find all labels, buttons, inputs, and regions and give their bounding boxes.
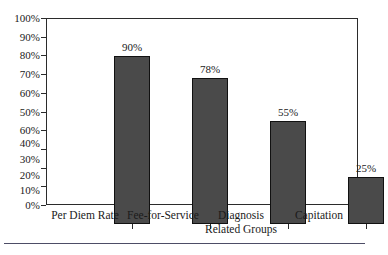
y-tick-label: 10% xyxy=(0,185,40,196)
x-category-label-line: Fee-for-Service xyxy=(127,209,199,221)
x-category-label: Per Diem Rate xyxy=(46,208,124,222)
x-axis: Per Diem RateFee-for-ServiceDiagnosisRel… xyxy=(46,208,358,248)
bar-value-label: 78% xyxy=(170,64,250,75)
y-axis: 100%90%80%70%60%50%60%40%30%20%10%0% xyxy=(0,18,40,205)
bar-value-label: 25% xyxy=(326,163,388,174)
y-tick-label: 20% xyxy=(0,169,40,180)
y-tick-mark xyxy=(41,186,46,187)
plot-area: 90%78%55%25% xyxy=(46,18,358,205)
x-category-label-line: Capitation xyxy=(295,209,343,221)
y-tick-mark xyxy=(41,168,46,169)
x-category-label-line: Per Diem Rate xyxy=(51,209,119,221)
bar xyxy=(192,78,228,224)
bar-value-label: 90% xyxy=(92,42,172,53)
bar xyxy=(114,56,150,224)
y-tick-label: 30% xyxy=(0,153,40,164)
bar-value-label: 55% xyxy=(248,107,328,118)
y-tick-label: 100% xyxy=(0,13,40,24)
y-tick-mark xyxy=(41,93,46,94)
y-tick-mark xyxy=(41,55,46,56)
y-tick-mark xyxy=(41,74,46,75)
x-category-label: Capitation xyxy=(280,208,358,222)
y-tick-mark xyxy=(41,37,46,38)
y-tick-label: 90% xyxy=(0,31,40,42)
x-category-label: DiagnosisRelated Groups xyxy=(202,208,280,236)
x-category-label-line: Diagnosis xyxy=(218,209,264,221)
y-tick-label: 70% xyxy=(0,69,40,80)
x-category-label: Fee-for-Service xyxy=(124,208,202,222)
y-tick-label: 60% xyxy=(0,125,40,136)
y-tick-label: 0% xyxy=(0,200,40,211)
y-tick-mark xyxy=(41,149,46,150)
y-tick-mark xyxy=(41,130,46,131)
x-tick-mark xyxy=(366,224,367,229)
y-tick-label: 50% xyxy=(0,106,40,117)
y-tick-label: 60% xyxy=(0,87,40,98)
bottom-divider xyxy=(4,243,365,244)
y-tick-mark xyxy=(41,205,46,206)
bars-layer: 90%78%55%25% xyxy=(93,37,388,224)
y-tick-mark xyxy=(41,112,46,113)
x-category-label-line: Related Groups xyxy=(202,222,280,236)
y-tick-label: 80% xyxy=(0,50,40,61)
y-tick-label: 40% xyxy=(0,137,40,148)
y-tick-mark xyxy=(41,18,46,19)
